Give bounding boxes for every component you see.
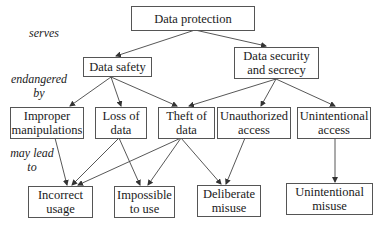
- edge-theft-incorrect: [78, 138, 181, 185]
- node-data-security: Data security and secrecy: [234, 47, 319, 79]
- node-improper-manipulations: Improper manipulations: [10, 107, 84, 139]
- edge-unauthorized-deliberate: [226, 138, 245, 184]
- edge-theft-deliberate: [181, 138, 221, 184]
- label-may-lead-to: may lead to: [6, 146, 58, 174]
- edge-security-unintentional: [276, 79, 335, 106]
- node-theft-of-data: Theft of data: [158, 107, 215, 139]
- edge-safety-theft: [111, 77, 177, 106]
- edge-protection-safety: [116, 30, 195, 56]
- diagram-canvas: Data protection Data safety Data securit…: [0, 0, 380, 229]
- node-data-safety: Data safety: [83, 57, 152, 77]
- node-impossible-to-use: Impossible to use: [114, 186, 175, 218]
- edge-safety-improper: [70, 77, 111, 106]
- node-deliberate-misuse: Deliberate misuse: [197, 185, 261, 217]
- edge-safety-loss: [111, 77, 121, 106]
- label-endangered-by: endangered by: [3, 72, 75, 100]
- edge-protection-security: [195, 30, 266, 46]
- node-unintentional-access: Unintentional access: [297, 107, 371, 139]
- label-serves: serves: [24, 26, 64, 40]
- edge-loss-incorrect: [72, 138, 119, 185]
- node-loss-of-data: Loss of data: [95, 107, 147, 139]
- node-data-protection: Data protection: [131, 6, 255, 31]
- node-unintentional-misuse: Unintentional misuse: [286, 183, 373, 215]
- node-unauthorized-access: Unauthorized access: [217, 107, 291, 139]
- node-incorrect-usage: Incorrect usage: [28, 186, 93, 218]
